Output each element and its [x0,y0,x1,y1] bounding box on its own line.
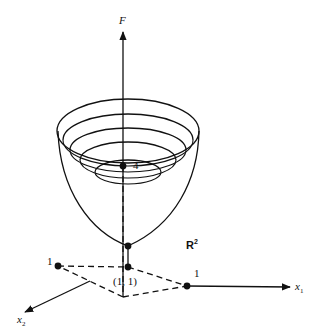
x2-axis [25,281,90,312]
contour-front-2 [63,140,193,166]
f-label: F [119,15,126,26]
x1-axis [187,286,290,287]
plane-label: R2 [186,238,198,251]
contour-4 [80,142,176,160]
min-point-label: (1, 1) [113,276,137,287]
contour-front-3 [70,150,186,172]
x1-tick-point [184,283,191,290]
x2-tick-label: 1 [47,256,53,267]
f-point [120,163,127,170]
min-point-surface [125,243,132,250]
x2-axis-label: x2 [17,314,25,328]
x1-axis-label: x1 [295,281,303,295]
x1-tick-label: 1 [194,268,200,279]
f-value-label: 4 [133,160,139,171]
contour-3 [70,128,186,150]
rim-contour [57,99,199,163]
paraboloid-diagram [0,0,320,334]
x2-tick-point [55,263,62,270]
min-point-plane [125,264,132,271]
